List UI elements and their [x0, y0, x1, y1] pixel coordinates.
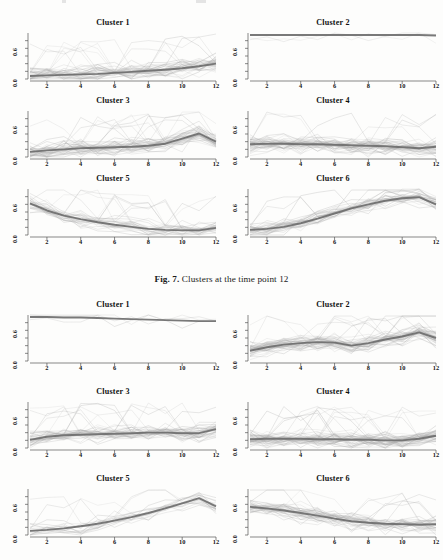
- x-axis-tick-label: 8: [147, 238, 150, 245]
- x-axis-tick-label: 6: [113, 160, 116, 167]
- x-axis-tick-label: 4: [299, 82, 302, 89]
- x-axis-tick-label: 6: [333, 160, 336, 167]
- x-axis-tick-label: 12: [213, 238, 219, 245]
- cluster-mean-curve: [30, 203, 216, 230]
- x-axis-tick-label: 12: [213, 538, 219, 545]
- x-axis-tick-label: 2: [265, 238, 268, 245]
- x-axis-tick-label: 10: [179, 538, 185, 545]
- x-axis-tick-label: 8: [147, 160, 150, 167]
- x-axis-tick-label: 6: [113, 82, 116, 89]
- x-axis-tick-label: 6: [113, 364, 116, 371]
- x-axis-tick-label: 4: [79, 238, 82, 245]
- x-axis-tick-labels: 24681012: [250, 236, 438, 250]
- x-axis-tick-label: 8: [367, 451, 370, 458]
- x-axis-tick-label: 8: [147, 364, 150, 371]
- x-axis-tick-label: 10: [399, 82, 405, 89]
- x-axis-tick-label: 6: [113, 451, 116, 458]
- x-axis-tick-label: 2: [45, 364, 48, 371]
- member-curves: [30, 403, 216, 448]
- x-axis-tick-label: 12: [213, 160, 219, 167]
- paper-page: Cluster 10.00.624681012Cluster 20.00.624…: [0, 0, 443, 560]
- x-axis-tick-label: 10: [179, 160, 185, 167]
- cluster-panel-title: Cluster 3: [8, 96, 218, 105]
- member-curves: [250, 316, 436, 360]
- x-axis-tick-label: 8: [367, 82, 370, 89]
- x-axis-tick-label: 4: [299, 364, 302, 371]
- x-axis-tick-label: 6: [113, 538, 116, 545]
- x-axis-tick-label: 6: [333, 538, 336, 545]
- x-axis-tick-label: 2: [45, 160, 48, 167]
- x-axis-tick-labels: 24681012: [30, 158, 218, 172]
- member-curves: [250, 490, 436, 535]
- x-axis-tick-labels: 24681012: [250, 449, 438, 463]
- x-axis-tick-labels: 24681012: [30, 80, 218, 94]
- x-axis-tick-label: 4: [299, 160, 302, 167]
- x-axis-tick-label: 12: [433, 82, 439, 89]
- x-axis-tick-labels: 24681012: [250, 158, 438, 172]
- cluster-panel-title: Cluster 3: [8, 387, 218, 396]
- x-axis-tick-label: 12: [433, 538, 439, 545]
- figure-caption-label: Fig. 7.: [154, 274, 179, 284]
- x-axis-tick-label: 10: [179, 238, 185, 245]
- x-axis-tick-label: 6: [333, 451, 336, 458]
- figure-8-partial: Cluster 10.00.624681012Cluster 20.00.624…: [0, 292, 443, 560]
- x-axis-tick-label: 12: [433, 451, 439, 458]
- x-axis-tick-label: 8: [367, 538, 370, 545]
- x-axis-tick-label: 4: [299, 238, 302, 245]
- cluster-panel-title: Cluster 1: [8, 18, 218, 27]
- x-axis-tick-labels: 24681012: [250, 80, 438, 94]
- cluster-panel-title: Cluster 2: [228, 300, 438, 309]
- figure-7-panel-grid: Cluster 10.00.624681012Cluster 20.00.624…: [0, 10, 443, 268]
- x-axis-tick-labels: 24681012: [30, 362, 218, 376]
- x-axis-tick-label: 6: [113, 238, 116, 245]
- cluster-panel-title: Cluster 6: [228, 174, 438, 183]
- x-axis-tick-label: 4: [79, 451, 82, 458]
- x-axis-tick-label: 12: [213, 451, 219, 458]
- cluster-panel-title: Cluster 2: [228, 18, 438, 27]
- x-axis-tick-label: 2: [265, 160, 268, 167]
- x-axis-tick-label: 8: [367, 364, 370, 371]
- x-axis-tick-labels: 24681012: [250, 362, 438, 376]
- x-axis-tick-label: 10: [179, 364, 185, 371]
- x-axis-tick-label: 4: [79, 364, 82, 371]
- x-axis-tick-label: 12: [433, 364, 439, 371]
- x-axis-tick-label: 10: [399, 538, 405, 545]
- x-axis-tick-label: 10: [179, 82, 185, 89]
- x-axis-tick-label: 12: [433, 160, 439, 167]
- x-axis-tick-label: 12: [213, 364, 219, 371]
- x-axis-tick-labels: 24681012: [30, 236, 218, 250]
- x-axis-tick-label: 8: [147, 451, 150, 458]
- member-curves: [250, 406, 436, 448]
- x-axis-tick-label: 4: [79, 160, 82, 167]
- x-axis-tick-labels: 24681012: [30, 536, 218, 550]
- cluster-panel-title: Cluster 5: [8, 474, 218, 483]
- figure-7: Cluster 10.00.624681012Cluster 20.00.624…: [0, 10, 443, 268]
- x-axis-tick-label: 10: [399, 238, 405, 245]
- x-axis-tick-label: 10: [399, 451, 405, 458]
- x-axis-tick-label: 4: [79, 538, 82, 545]
- x-axis-tick-label: 10: [399, 160, 405, 167]
- x-axis-tick-label: 8: [147, 82, 150, 89]
- x-axis-tick-label: 12: [213, 82, 219, 89]
- figure-8-panel-grid: Cluster 10.00.624681012Cluster 20.00.624…: [0, 292, 443, 560]
- cluster-panel-title: Cluster 1: [8, 300, 218, 309]
- x-axis-tick-label: 2: [265, 364, 268, 371]
- x-axis-tick-label: 4: [79, 82, 82, 89]
- cluster-mean-curve: [250, 35, 436, 36]
- x-axis-tick-label: 2: [45, 538, 48, 545]
- cluster-panel-title: Cluster 4: [228, 387, 438, 396]
- x-axis-tick-label: 6: [333, 364, 336, 371]
- x-axis-tick-label: 10: [399, 364, 405, 371]
- figure-caption-text: Clusters at the time point 12: [182, 274, 289, 284]
- figure-7-caption: Fig. 7. Clusters at the time point 12: [0, 268, 443, 290]
- x-axis-tick-label: 2: [265, 451, 268, 458]
- x-axis-tick-label: 2: [265, 538, 268, 545]
- x-axis-tick-label: 2: [265, 82, 268, 89]
- x-axis-tick-label: 10: [179, 451, 185, 458]
- x-axis-tick-label: 2: [45, 82, 48, 89]
- x-axis-tick-label: 8: [147, 538, 150, 545]
- x-axis-tick-label: 2: [45, 451, 48, 458]
- x-axis-tick-label: 6: [333, 238, 336, 245]
- x-axis-tick-label: 6: [333, 82, 336, 89]
- x-axis-tick-label: 8: [367, 238, 370, 245]
